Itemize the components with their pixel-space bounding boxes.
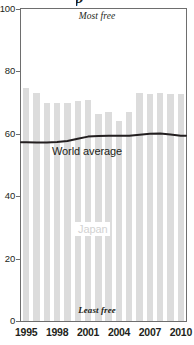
x-axis-label-2004: 2004 bbox=[108, 326, 130, 338]
y-axis-label-0: 0 bbox=[10, 316, 15, 326]
world-average-polyline bbox=[21, 133, 186, 142]
annotation-most-free: Most free bbox=[0, 11, 194, 21]
y-axis-tick-0 bbox=[16, 321, 21, 322]
line-series-world-average bbox=[21, 9, 186, 321]
x-axis-label-1998: 1998 bbox=[46, 326, 68, 338]
plot-right-rule bbox=[186, 8, 187, 322]
y-axis-label-40: 40 bbox=[5, 191, 15, 201]
cropped-title-fragment: p bbox=[76, 0, 83, 6]
x-axis-label-1995: 1995 bbox=[15, 326, 37, 338]
y-axis-label-60: 60 bbox=[5, 129, 15, 139]
x-axis-line bbox=[20, 321, 187, 322]
x-axis-label-2001: 2001 bbox=[77, 326, 99, 338]
series-label-world-average: World average bbox=[52, 145, 122, 157]
cropped-title-glyph: p bbox=[76, 0, 83, 6]
economic-freedom-chart: p 020406080100 Most free Least free Worl… bbox=[0, 0, 194, 345]
x-axis-label-2007: 2007 bbox=[139, 326, 161, 338]
y-axis-label-80: 80 bbox=[5, 66, 15, 76]
annotation-least-free: Least free bbox=[0, 305, 194, 315]
y-axis-label-20: 20 bbox=[5, 254, 15, 264]
series-label-japan: Japan bbox=[75, 222, 110, 236]
x-axis-label-2010: 2010 bbox=[170, 326, 192, 338]
